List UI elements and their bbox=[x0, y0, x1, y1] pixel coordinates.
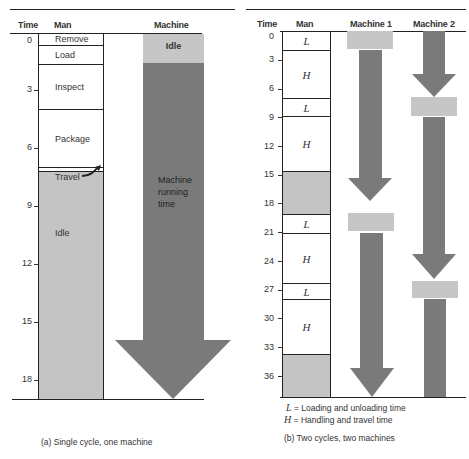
tick-24: 24 bbox=[254, 256, 274, 266]
panel-a-time-header: Time bbox=[18, 20, 38, 30]
segment-label: L bbox=[303, 35, 309, 47]
panel-b-machine2-header: Machine 2 bbox=[413, 19, 455, 29]
segment-H: H bbox=[283, 233, 330, 283]
panel-a-machine-header: Machine bbox=[154, 20, 189, 30]
machine-1-running-shaft bbox=[360, 233, 383, 369]
tick-15: 15 bbox=[12, 316, 32, 326]
machine-2-arrowhead-icon bbox=[412, 254, 456, 280]
tick-3: 3 bbox=[254, 54, 274, 64]
machine-1-idle-block bbox=[348, 213, 394, 231]
travel-pointer-arrow-icon bbox=[80, 164, 104, 180]
panel-a-man-header: Man bbox=[54, 20, 71, 30]
segment-load: Load bbox=[39, 45, 103, 64]
legend-h-text: = Handling and travel time bbox=[294, 415, 393, 425]
segment-L: L bbox=[283, 283, 330, 299]
machine-1-arrowhead-icon bbox=[348, 178, 392, 202]
machine-2-running-shaft bbox=[423, 31, 445, 75]
machine-2-running-shaft bbox=[423, 117, 445, 255]
tick-9: 9 bbox=[254, 112, 274, 122]
segment-H: H bbox=[283, 299, 330, 354]
segment-H: H bbox=[283, 50, 330, 98]
panel-b-bottom-rule bbox=[280, 397, 466, 398]
segment-package: Package bbox=[39, 109, 103, 167]
legend-l-text: = Loading and unloading time bbox=[294, 403, 406, 413]
tick-18: 18 bbox=[254, 198, 274, 208]
machine-running-arrowhead-icon bbox=[115, 340, 231, 400]
segment-H: H bbox=[283, 116, 330, 171]
tick-0: 0 bbox=[12, 35, 32, 45]
panel-b-man-column: L H L H L H L H bbox=[282, 31, 331, 397]
legend-l: L = Loading and unloading time bbox=[286, 402, 406, 413]
segment-remove: Remove bbox=[39, 33, 103, 45]
machine-2-idle-block bbox=[412, 281, 458, 298]
legend-h-symbol: H bbox=[284, 414, 291, 425]
segment-L: L bbox=[283, 31, 330, 50]
machine-running-label: Machine running time bbox=[158, 174, 192, 210]
segment-L: L bbox=[283, 214, 330, 233]
tick-12: 12 bbox=[12, 258, 32, 268]
segment-idle: Idle bbox=[39, 171, 103, 399]
machine-idle-label: Idle bbox=[166, 41, 182, 63]
tick-3: 3 bbox=[12, 84, 32, 94]
segment-label: H bbox=[303, 69, 311, 81]
panel-b-time-header: Time bbox=[257, 19, 277, 29]
segment-label: L bbox=[303, 218, 309, 230]
segment-label: H bbox=[303, 253, 311, 265]
running-label-line: running bbox=[158, 186, 192, 198]
tick-0: 0 bbox=[254, 31, 274, 41]
segment-label: Inspect bbox=[55, 82, 84, 92]
segment-label: Remove bbox=[55, 34, 89, 44]
running-label-line: Machine bbox=[158, 174, 192, 186]
panel-b-machine1-header: Machine 1 bbox=[350, 19, 392, 29]
tick-21: 21 bbox=[254, 227, 274, 237]
segment-idle bbox=[283, 354, 330, 397]
machine-2-idle-block bbox=[411, 97, 457, 116]
tick-27: 27 bbox=[254, 284, 274, 294]
segment-L: L bbox=[283, 98, 330, 116]
legend-l-symbol: L bbox=[286, 402, 292, 413]
panel-a-top-rule bbox=[10, 9, 235, 10]
panel-b-top-rule bbox=[246, 9, 466, 10]
panel-b-man-header: Man bbox=[296, 19, 313, 29]
tick-33: 33 bbox=[254, 342, 274, 352]
travel-label: Travel bbox=[55, 172, 80, 182]
segment-inspect: Inspect bbox=[39, 64, 103, 109]
segment-label: Idle bbox=[55, 228, 70, 238]
tick-18: 18 bbox=[12, 374, 32, 384]
legend-h: H = Handling and travel time bbox=[284, 414, 393, 425]
tick-6: 6 bbox=[12, 142, 32, 152]
tick-30: 30 bbox=[254, 313, 274, 323]
segment-label: H bbox=[303, 321, 311, 333]
segment-idle bbox=[283, 171, 330, 214]
machine-2-running-shaft bbox=[424, 299, 446, 397]
running-label-line: time bbox=[158, 198, 192, 210]
machine-1-arrowhead-icon bbox=[350, 368, 394, 397]
segment-label: L bbox=[303, 286, 309, 298]
tick-12: 12 bbox=[254, 141, 274, 151]
panel-a-caption: (a) Single cycle, one machine bbox=[41, 437, 153, 447]
segment-label: Load bbox=[55, 50, 75, 60]
machine-1-running-shaft bbox=[359, 50, 382, 179]
tick-36: 36 bbox=[254, 371, 274, 381]
panel-a-bottom-rule bbox=[12, 399, 204, 400]
panel-a-man-column: Remove Load Inspect Package Idle bbox=[38, 33, 104, 399]
segment-label: L bbox=[303, 102, 309, 114]
tick-9: 9 bbox=[12, 200, 32, 210]
machine-idle-block: Idle bbox=[143, 34, 204, 63]
segment-label: H bbox=[303, 138, 311, 150]
machine-1-idle-block bbox=[347, 31, 393, 49]
tick-15: 15 bbox=[254, 169, 274, 179]
panel-b-caption: (b) Two cycles, two machines bbox=[284, 433, 395, 443]
tick-6: 6 bbox=[254, 83, 274, 93]
machine-2-arrowhead-icon bbox=[412, 74, 456, 98]
segment-label: Package bbox=[55, 134, 90, 144]
